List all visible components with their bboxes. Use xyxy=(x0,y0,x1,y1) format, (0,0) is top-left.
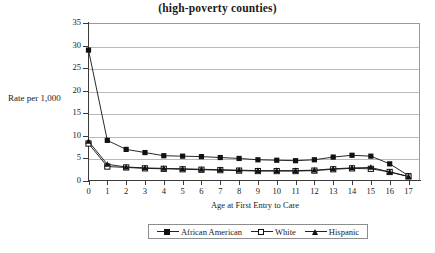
legend-item[interactable]: White xyxy=(251,227,296,237)
x-tick-label: 4 xyxy=(156,186,172,196)
x-tick-label: 3 xyxy=(137,186,153,196)
x-tick xyxy=(409,181,410,185)
y-tick xyxy=(83,68,88,69)
chart-legend: African AmericanWhiteHispanic xyxy=(148,224,368,239)
open-square-icon xyxy=(258,229,264,235)
x-tick-label: 0 xyxy=(81,186,97,196)
y-tick xyxy=(83,136,88,137)
x-tick xyxy=(390,181,391,185)
x-tick-label: 12 xyxy=(306,186,322,196)
x-tick xyxy=(89,181,90,185)
legend-item[interactable]: African American xyxy=(157,227,242,237)
x-tick-label: 9 xyxy=(250,186,266,196)
x-tick xyxy=(277,181,278,185)
y-tick-label: 25 xyxy=(55,63,81,72)
gridline xyxy=(89,114,419,115)
x-tick xyxy=(183,181,184,185)
x-tick xyxy=(164,181,165,185)
x-tick xyxy=(201,181,202,185)
x-tick xyxy=(107,181,108,185)
y-tick xyxy=(83,158,88,159)
y-tick-label: 30 xyxy=(55,41,81,50)
x-tick-label: 17 xyxy=(401,186,417,196)
x-tick-label: 5 xyxy=(175,186,191,196)
x-tick-label: 16 xyxy=(382,186,398,196)
legend-label: White xyxy=(275,227,296,237)
x-tick-label: 11 xyxy=(288,186,304,196)
x-tick xyxy=(296,181,297,185)
x-tick xyxy=(352,181,353,185)
legend-item[interactable]: Hispanic xyxy=(305,227,359,237)
x-tick-label: 2 xyxy=(118,186,134,196)
legend-marker-icon xyxy=(157,227,179,236)
y-tick xyxy=(83,46,88,47)
y-tick xyxy=(83,113,88,114)
filled-triangle-icon xyxy=(312,229,318,235)
legend-label: African American xyxy=(181,227,242,237)
x-tick xyxy=(145,181,146,185)
y-tick-label: 5 xyxy=(55,153,81,162)
chart-figure: (high-poverty counties) Rate per 1,000 A… xyxy=(0,0,435,253)
x-tick-label: 1 xyxy=(99,186,115,196)
y-axis-line xyxy=(88,22,89,182)
x-tick xyxy=(258,181,259,185)
y-tick xyxy=(83,91,88,92)
y-tick-label: 20 xyxy=(55,86,81,95)
filled-square-icon xyxy=(164,229,170,235)
legend-label: Hispanic xyxy=(329,227,359,237)
chart-title: (high-poverty counties) xyxy=(0,1,435,15)
x-axis-title: Age at First Entry to Care xyxy=(88,200,422,211)
x-tick-label: 15 xyxy=(363,186,379,196)
gridline xyxy=(89,159,419,160)
x-tick xyxy=(239,181,240,185)
legend-marker-icon xyxy=(305,227,327,236)
legend-marker-icon xyxy=(251,227,273,236)
x-tick xyxy=(126,181,127,185)
plot-area xyxy=(88,23,420,181)
y-tick-label: 10 xyxy=(55,131,81,140)
y-tick xyxy=(83,23,88,24)
x-tick-label: 10 xyxy=(269,186,285,196)
x-tick-label: 7 xyxy=(212,186,228,196)
gridline xyxy=(89,69,419,70)
gridline xyxy=(89,47,419,48)
x-tick-label: 8 xyxy=(231,186,247,196)
gridline xyxy=(89,137,419,138)
y-tick-label: 0 xyxy=(55,176,81,185)
x-tick xyxy=(333,181,334,185)
x-tick-label: 13 xyxy=(325,186,341,196)
x-tick xyxy=(314,181,315,185)
y-tick-label: 35 xyxy=(55,18,81,27)
y-tick-label: 15 xyxy=(55,108,81,117)
x-tick-label: 14 xyxy=(344,186,360,196)
x-tick xyxy=(371,181,372,185)
x-tick-label: 6 xyxy=(193,186,209,196)
x-tick xyxy=(220,181,221,185)
y-tick xyxy=(83,181,88,182)
gridline xyxy=(89,92,419,93)
